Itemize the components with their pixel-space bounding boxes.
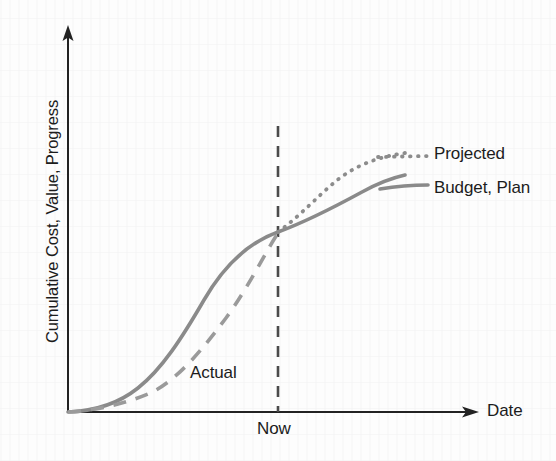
series-label-projected: Projected bbox=[434, 144, 505, 164]
series-label-budget-plan: Budget, Plan bbox=[434, 178, 530, 198]
series-label-actual: Actual bbox=[190, 363, 237, 383]
x-axis bbox=[68, 407, 479, 418]
now-marker-label: Now bbox=[257, 419, 291, 439]
y-axis bbox=[63, 25, 74, 412]
series-actual-curve bbox=[68, 233, 278, 412]
legend-swatch-budget-plan bbox=[380, 185, 428, 189]
series-projected-curve bbox=[278, 153, 405, 232]
x-axis-label: Date bbox=[487, 401, 523, 421]
chart-canvas bbox=[0, 0, 556, 461]
y-axis-label: Cumulative Cost, Value, Progress bbox=[43, 92, 62, 352]
legend-swatch-projected bbox=[378, 156, 428, 157]
chart-figure: Cumulative Cost, Value, Progress Date Pr… bbox=[0, 0, 556, 461]
